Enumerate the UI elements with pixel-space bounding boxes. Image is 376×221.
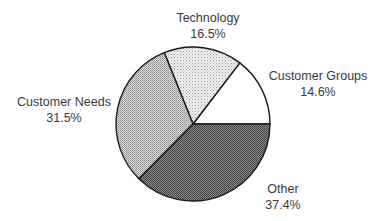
label-other-name: Other: [258, 181, 308, 197]
label-technology-name: Technology: [172, 10, 244, 26]
label-customer-needs-name: Customer Needs: [14, 94, 114, 110]
label-customer-groups-name: Customer Groups: [263, 68, 373, 84]
label-customer-groups-pct: 14.6%: [263, 84, 373, 100]
label-customer-needs-pct: 31.5%: [14, 110, 114, 126]
label-technology-pct: 16.5%: [172, 26, 244, 42]
label-other-pct: 37.4%: [258, 197, 308, 213]
label-customer-needs: Customer Needs 31.5%: [14, 94, 114, 126]
label-other: Other 37.4%: [258, 181, 308, 213]
label-customer-groups: Customer Groups 14.6%: [263, 68, 373, 100]
label-technology: Technology 16.5%: [172, 10, 244, 42]
